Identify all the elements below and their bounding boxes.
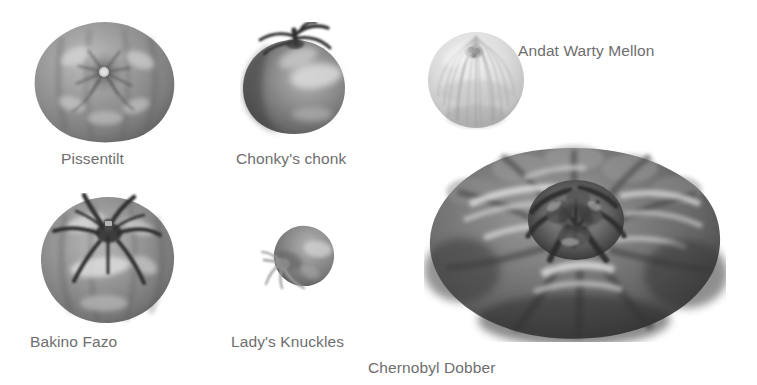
specimen-bakino-fazo bbox=[38, 193, 178, 327]
label-ladys-knuckles: Lady's Knuckles bbox=[231, 334, 344, 350]
label-chonkys-chonk: Chonky's chonk bbox=[236, 151, 346, 167]
specimen-chonkys-chonk bbox=[240, 22, 348, 138]
tomato-variety-plate: Pissentilt bbox=[0, 0, 757, 385]
label-bakino-fazo: Bakino Fazo bbox=[30, 334, 117, 350]
specimen-andat-warty-mellon bbox=[426, 30, 526, 130]
label-chernobyl-dobber: Chernobyl Dobber bbox=[368, 360, 495, 376]
specimen-ladys-knuckles bbox=[258, 222, 344, 300]
label-pissentilt: Pissentilt bbox=[61, 151, 124, 167]
specimen-pissentilt bbox=[32, 20, 178, 144]
label-andat-warty-mellon: Andat Warty Mellon bbox=[518, 43, 654, 59]
specimen-chernobyl-dobber bbox=[424, 142, 726, 342]
